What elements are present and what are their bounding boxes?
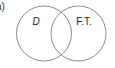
- set-circle-ft: [51, 6, 106, 61]
- venn-diagram: D F.T.: [0, 0, 115, 68]
- set-circle-d: [17, 6, 72, 61]
- set-label-ft: F.T.: [76, 16, 92, 27]
- set-label-d: D: [32, 16, 39, 27]
